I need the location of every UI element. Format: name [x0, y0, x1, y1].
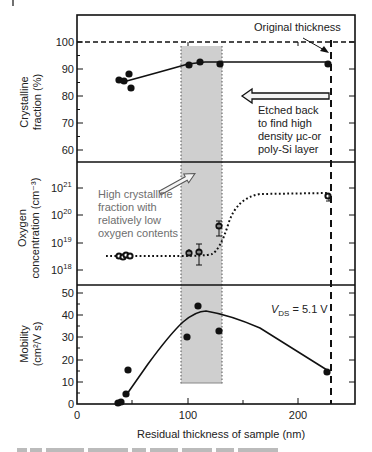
mobility-fit-curve	[127, 311, 327, 394]
high-crystalline-note: oxygen contents	[98, 227, 179, 239]
original-thickness-label: Original thickness	[254, 21, 341, 33]
etched-back-note: poly-Si layer	[258, 143, 319, 155]
etch-back-arrow-icon	[242, 89, 329, 103]
chart-figure: 100 90 80 70 60 1021 1020 1019 1018 50 4…	[0, 0, 372, 452]
high-crystalline-note: High crystalline	[98, 188, 173, 200]
crystalline-ylabel: fraction (%)	[31, 74, 43, 130]
tick-label: 1021	[51, 180, 72, 194]
tick-label: 70	[62, 117, 74, 129]
tick-label: 50	[62, 287, 74, 299]
tick-label: 60	[62, 144, 74, 156]
high-crystalline-note: fraction with	[98, 201, 157, 213]
pointer-arrowhead-icon	[320, 46, 329, 53]
tick-label: 90	[62, 63, 74, 75]
oxygen-ylabel: Oxygen	[16, 209, 28, 247]
oxygen-ylabel: concentration (cm⁻³)	[29, 178, 41, 279]
x-tick-label: 0	[74, 409, 80, 421]
crystalline-fit-curve	[123, 62, 329, 82]
crystalline-ylabel: Crystalline	[18, 76, 30, 127]
etched-back-note: to find high	[258, 117, 312, 129]
x-tick-label: 100	[179, 409, 197, 421]
etched-back-note: density µc-or	[258, 130, 322, 142]
etched-back-note: Etched back	[258, 104, 319, 116]
mobility-ylabel: Mobility	[18, 325, 30, 363]
tick-label: 10	[62, 376, 74, 388]
high-crystalline-note: relatively low	[98, 214, 161, 226]
tick-label: 20	[62, 354, 74, 366]
tick-label: 80	[62, 90, 74, 102]
tick-label: 100	[56, 36, 74, 48]
tick-label: 1019	[51, 235, 72, 249]
tick-label: 30	[62, 331, 74, 343]
tick-label: 1020	[51, 207, 72, 221]
x-axis-label: Residual thickness of sample (nm)	[137, 428, 305, 440]
tick-label: 40	[62, 309, 74, 321]
mobility-ylabel: (cm²/V s)	[31, 322, 43, 367]
tick-label: 1018	[51, 262, 72, 276]
vds-label: VDS = 5.1 V	[271, 303, 328, 318]
caption-remnant	[17, 448, 278, 452]
x-tick-label: 200	[289, 409, 307, 421]
